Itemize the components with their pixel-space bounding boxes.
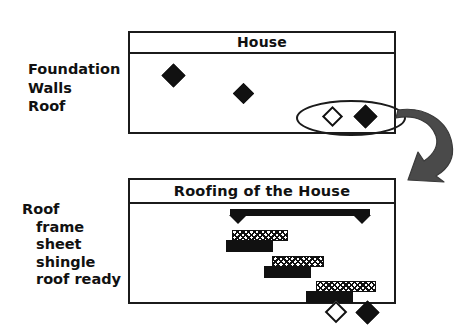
roof-ready-finish-milestone[interactable] <box>355 300 379 324</box>
row-label-roof-ready: roof ready <box>36 272 121 287</box>
diagram-canvas: Foundation Walls Roof House Roof frame s… <box>0 0 468 330</box>
row-label-roof-summary: Roof <box>22 202 121 217</box>
roofing-gantt-box: Roofing of the House <box>128 178 396 304</box>
row-label-shingle: shingle <box>36 255 121 270</box>
row-label-roof: Roof <box>28 99 120 114</box>
house-gantt-title: House <box>237 34 287 50</box>
walls-milestone[interactable] <box>233 83 254 104</box>
row-label-sheet: sheet <box>36 237 121 252</box>
house-gantt-body <box>130 54 394 132</box>
roof-highlight-ellipse <box>296 100 406 136</box>
foundation-milestone[interactable] <box>161 63 185 87</box>
house-gantt-title-bar: House <box>130 33 394 54</box>
roofing-gantt-title-bar: Roofing of the House <box>130 180 394 204</box>
shingle-task-bar[interactable] <box>306 281 376 303</box>
bottom-chart-row-labels: Roof frame sheet shingle roof ready <box>22 202 121 287</box>
roof-summary-bar[interactable] <box>230 209 370 225</box>
roof-summary-cap-end <box>353 215 371 224</box>
sheet-task-bar[interactable] <box>264 256 326 278</box>
frame-task-bar[interactable] <box>226 230 288 252</box>
roofing-gantt-title: Roofing of the House <box>174 183 350 199</box>
row-label-foundation: Foundation <box>28 62 120 77</box>
row-label-walls: Walls <box>28 81 120 96</box>
row-label-frame: frame <box>36 220 121 235</box>
roofing-gantt-body <box>130 204 394 302</box>
shingle-task-bar-actual <box>306 291 353 303</box>
roof-ready-start-milestone[interactable] <box>325 301 348 324</box>
frame-task-bar-actual <box>226 240 273 252</box>
top-chart-row-labels: Foundation Walls Roof <box>28 62 120 114</box>
sheet-task-bar-actual <box>264 266 311 278</box>
house-gantt-box: House <box>128 31 396 134</box>
roof-summary-cap-start <box>229 215 247 224</box>
roof-summary-bar-body <box>230 209 370 216</box>
